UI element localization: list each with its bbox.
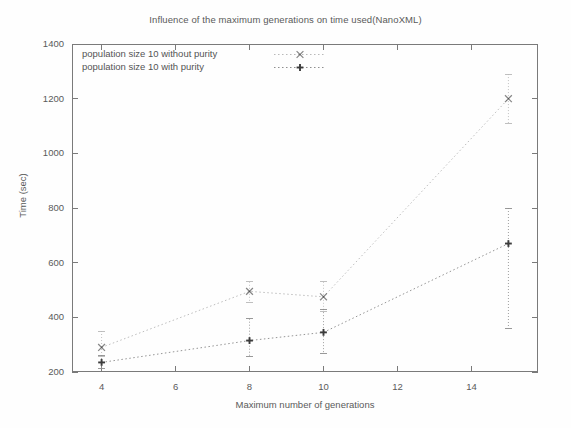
marker-plus-icon <box>98 359 105 366</box>
x-axis-tick-label: 4 <box>82 381 122 392</box>
y-axis-title: Time (sec) <box>17 146 28 246</box>
y-axis-tick-label: 1200 <box>20 93 64 104</box>
marker-plus-icon <box>505 240 512 247</box>
x-axis-tick-label: 6 <box>156 381 196 392</box>
legend-label-without-purity: population size 10 without purity <box>82 48 217 59</box>
data-series-with-purity <box>98 208 512 369</box>
x-axis-title: Maximum number of generations <box>72 399 538 410</box>
marker-cross-x-icon <box>505 95 512 102</box>
x-axis-tick-label: 10 <box>303 381 343 392</box>
marker-plus-icon <box>246 337 253 344</box>
x-axis-tick-label: 12 <box>377 381 417 392</box>
y-axis-tick-label: 400 <box>20 311 64 322</box>
chart-legend: population size 10 without purity popula… <box>78 48 326 78</box>
data-series-without-purity <box>98 74 512 357</box>
legend-sample-plus-icon <box>274 61 326 74</box>
x-axis-tick-label: 14 <box>451 381 491 392</box>
chart-figure: Influence of the maximum generations on … <box>0 0 571 428</box>
legend-item-with-purity: population size 10 with purity <box>78 61 326 74</box>
y-axis-tick-label: 200 <box>20 366 64 377</box>
legend-label-with-purity: population size 10 with purity <box>82 61 204 72</box>
y-axis-tick-label: 1400 <box>20 38 64 49</box>
series-line <box>102 244 509 363</box>
legend-sample-cross-x-icon <box>274 48 326 61</box>
x-axis-tick-label: 8 <box>230 381 270 392</box>
y-axis-tick-label: 600 <box>20 257 64 268</box>
series-line <box>102 99 509 348</box>
axis-ticks <box>72 44 538 372</box>
legend-item-without-purity: population size 10 without purity <box>78 48 326 61</box>
marker-plus-icon <box>320 329 327 336</box>
